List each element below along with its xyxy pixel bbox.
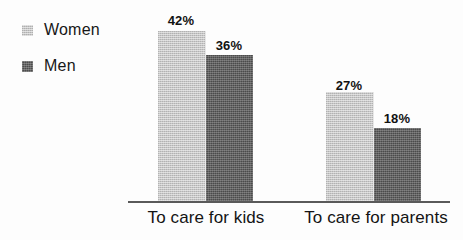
bar-chart: Women Men 42% 36% 27% 18% To care for ki… [0,0,463,240]
bar-value-kids-women: 42% [157,13,205,28]
bar-kids-men [206,55,253,201]
plot-area: 42% 36% 27% 18% To care for kids To care… [0,0,463,240]
bar-value-parents-women: 27% [325,78,373,93]
bar-value-parents-men: 18% [373,111,421,126]
x-axis-line [128,201,450,203]
category-label-parents: To care for parents [290,208,462,228]
bar-kids-women [158,31,206,201]
bar-parents-men [374,128,421,201]
bar-value-kids-men: 36% [205,38,253,53]
bar-parents-women [326,92,374,201]
category-label-kids: To care for kids [130,208,282,228]
